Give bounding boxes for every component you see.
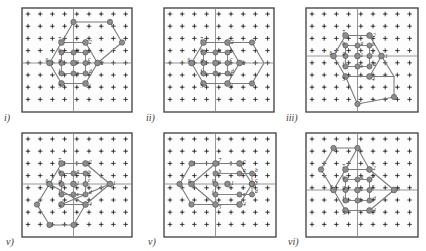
lattice-marker-dot — [27, 163, 29, 165]
vertex-node-2[interactable] — [237, 161, 243, 167]
site-label-h: h — [58, 168, 61, 174]
lattice-node[interactable] — [189, 202, 194, 207]
lattice-marker-dot — [323, 187, 325, 189]
lattice-marker-dot — [336, 13, 338, 15]
lattice-marker-dot — [39, 163, 41, 165]
site-node-1[interactable] — [225, 181, 231, 187]
vertex-node-4[interactable] — [367, 208, 373, 214]
site-node-e[interactable] — [213, 71, 218, 76]
lattice-marker-dot — [397, 74, 399, 76]
site-node-b[interactable] — [249, 171, 254, 176]
vertex-label-6: 6 — [188, 57, 191, 63]
lattice-marker-dot — [100, 211, 102, 213]
vertex-node-2[interactable] — [83, 161, 89, 167]
lattice-marker-dot — [88, 150, 90, 152]
lattice-marker-dot — [311, 199, 313, 201]
lattice-marker-dot — [39, 187, 41, 189]
vertex-node-1[interactable] — [237, 60, 243, 66]
lattice-node[interactable] — [189, 161, 194, 166]
site-node-a[interactable] — [355, 177, 360, 182]
lattice-marker-dot — [27, 38, 29, 40]
vertex-node-2[interactable] — [367, 33, 373, 39]
site-node-e[interactable] — [71, 192, 76, 197]
vertex-node-2[interactable] — [83, 40, 89, 46]
site-node-d[interactable] — [367, 64, 372, 69]
site-node-a[interactable] — [355, 43, 360, 48]
lattice-node[interactable] — [355, 101, 360, 106]
site-node-d[interactable] — [83, 192, 88, 197]
vertex-node-2[interactable] — [225, 40, 231, 46]
lattice-marker-dot — [181, 175, 183, 177]
site-node-e[interactable] — [237, 192, 242, 197]
lattice-marker-dot — [39, 150, 41, 152]
site-node-e[interactable] — [355, 64, 360, 69]
site-node-d[interactable] — [249, 192, 254, 197]
lattice-marker-dot — [113, 199, 115, 201]
lattice-marker-dot — [242, 224, 244, 226]
site-label-h: h — [200, 47, 203, 53]
lattice-marker-dot — [169, 175, 171, 177]
lattice-marker-dot — [194, 138, 196, 140]
lattice-node[interactable] — [71, 19, 76, 24]
lattice-node[interactable] — [355, 145, 360, 150]
site-node-a[interactable] — [213, 50, 218, 55]
lattice-node[interactable] — [177, 181, 182, 186]
lattice-marker-dot — [255, 211, 257, 213]
site-label-h: h — [342, 40, 345, 46]
site-label-h: h — [219, 168, 222, 174]
lattice-marker-dot — [409, 163, 411, 165]
site-label-1: 1 — [77, 180, 80, 186]
site-node-e[interactable] — [71, 71, 76, 76]
site-node-c[interactable] — [249, 181, 254, 186]
vertex-label-7: 7 — [58, 36, 61, 42]
lattice-marker-dot — [372, 86, 374, 88]
site-node-a[interactable] — [237, 171, 242, 176]
lattice-marker-dot — [125, 25, 127, 27]
site-node-d[interactable] — [225, 71, 230, 76]
vertex-label-2: 2 — [231, 39, 234, 45]
vertex-node-4[interactable] — [237, 202, 243, 208]
vertex-node-4[interactable] — [83, 202, 89, 208]
site-node-a[interactable] — [71, 50, 76, 55]
lattice-marker-dot — [52, 211, 54, 213]
lattice-node[interactable] — [318, 167, 323, 172]
site-label-1: 1 — [361, 52, 364, 58]
site-label-d: d — [373, 195, 376, 201]
lattice-marker-dot — [194, 99, 196, 101]
lattice-marker-dot — [397, 163, 399, 165]
lattice-node[interactable] — [249, 81, 254, 86]
vertex-node-2[interactable] — [367, 167, 373, 173]
site-node-h[interactable] — [213, 171, 218, 176]
lattice-marker-dot — [255, 25, 257, 27]
lattice-node[interactable] — [71, 222, 76, 227]
lattice-node[interactable] — [331, 145, 336, 150]
lattice-marker-dot — [255, 86, 257, 88]
site-node-d[interactable] — [83, 71, 88, 76]
vertex-node-1[interactable] — [379, 53, 385, 59]
lattice-marker-dot — [64, 25, 66, 27]
lattice-node[interactable] — [391, 94, 396, 99]
site-node-a[interactable] — [71, 171, 76, 176]
lattice-marker-dot — [384, 38, 386, 40]
lattice-marker-dot — [27, 13, 29, 15]
lattice-marker-dot — [100, 74, 102, 76]
vertex-node-1[interactable] — [95, 60, 101, 66]
lattice-marker-dot — [311, 175, 313, 177]
lattice-marker-dot — [348, 25, 350, 27]
lattice-node[interactable] — [119, 40, 124, 45]
panel-i: 1276541abcdefgh — [22, 8, 132, 112]
lattice-node[interactable] — [47, 222, 52, 227]
lattice-marker-dot — [372, 138, 374, 140]
lattice-marker-dot — [311, 150, 313, 152]
site-node-d[interactable] — [367, 198, 372, 203]
lattice-node[interactable] — [249, 40, 254, 45]
lattice-marker-dot — [409, 74, 411, 76]
lattice-marker-dot — [384, 187, 386, 189]
site-node-f[interactable] — [213, 192, 218, 197]
lattice-node[interactable] — [34, 202, 39, 207]
lattice-node[interactable] — [107, 19, 112, 24]
site-node-e[interactable] — [355, 198, 360, 203]
lattice-marker-dot — [27, 199, 29, 201]
lattice-marker-dot — [311, 50, 313, 52]
lattice-marker-dot — [169, 25, 171, 27]
